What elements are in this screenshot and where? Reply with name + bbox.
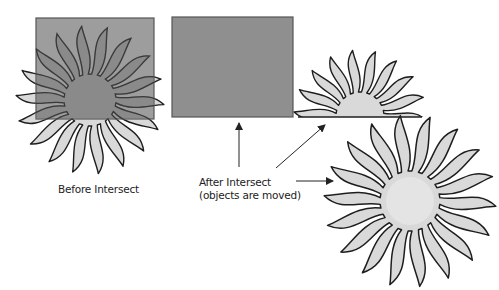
objects-moved-note: (objects are moved) (199, 189, 301, 202)
diagram-canvas (0, 0, 499, 290)
after-rectangle-shape (172, 17, 293, 117)
before-intersect-label: Before Intersect (58, 183, 139, 196)
arrow (276, 125, 325, 168)
after-intersect-label: After Intersect (199, 176, 271, 189)
pointer-arrows (239, 123, 333, 181)
intersect-diagram: Before Intersect After Intersect (object… (0, 0, 499, 290)
after-sun-shape (324, 116, 496, 287)
